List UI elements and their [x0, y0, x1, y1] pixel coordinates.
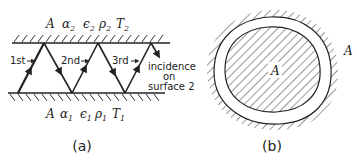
caption-b: (b) [262, 138, 282, 154]
svg-text:surface 2: surface 2 [148, 81, 195, 92]
epsilon-2: ϵ2 [83, 17, 95, 33]
top-surface-properties: A α2 ϵ2 ρ2 T2 [45, 17, 129, 33]
top-surface [12, 35, 170, 43]
reflected-ray-path [18, 43, 158, 93]
temperature-2: T2 [116, 17, 129, 33]
incidence-note: incidence on surface 2 [148, 61, 196, 92]
epsilon-1: ϵ1 [80, 107, 92, 123]
inner-area-label: A [270, 64, 280, 78]
bottom-surface [8, 93, 165, 101]
rho-2: ρ2 [98, 17, 111, 33]
rho-1: ρ1 [94, 107, 107, 123]
incidence-1st: 1st [10, 55, 26, 66]
incidence-labels: 1st 2nd 3rd [10, 55, 137, 66]
area-label-top: A [45, 17, 55, 31]
panel-b: A A (b) [207, 10, 356, 154]
radiation-exchange-diagram: A α2 ϵ2 ρ2 T2 A α1 [0, 0, 357, 161]
area-label-bottom: A [45, 107, 55, 121]
panel-a: A α2 ϵ2 ρ2 T2 A α1 [8, 17, 196, 154]
incidence-3rd: 3rd [112, 55, 129, 66]
bottom-surface-properties: A α1 ϵ1 ρ1 T1 [45, 107, 125, 123]
incidence-2nd: 2nd [61, 55, 80, 66]
alpha-2: α2 [62, 17, 75, 33]
temperature-1: T1 [112, 107, 125, 123]
alpha-1: α1 [60, 107, 73, 123]
outer-area-label: A [343, 44, 353, 58]
caption-a: (a) [72, 138, 92, 154]
